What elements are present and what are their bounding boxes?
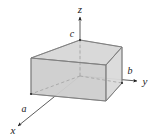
- vertex-dot-b: [121, 82, 123, 84]
- vertex-label-b: b: [128, 65, 133, 76]
- vertex-label-c: c: [70, 28, 75, 39]
- coordinate-box-diagram: z y x c b a: [0, 0, 155, 139]
- box-front-left-face: [31, 58, 106, 101]
- box-group: [31, 40, 122, 101]
- figure-container: z y x c b a: [0, 0, 155, 139]
- vertex-dot-a: [30, 93, 32, 95]
- vertex-dot-c: [79, 39, 81, 41]
- z-axis-label: z: [77, 3, 83, 15]
- y-axis-label: y: [142, 75, 148, 87]
- x-axis-label: x: [10, 124, 16, 136]
- vertex-label-a: a: [22, 103, 27, 114]
